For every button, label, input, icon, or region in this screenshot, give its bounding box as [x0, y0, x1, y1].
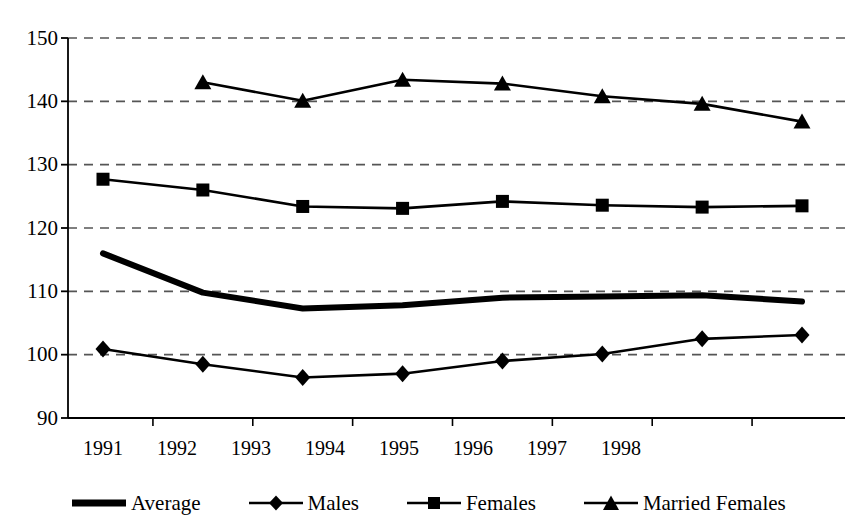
legend-label: Average [131, 493, 201, 514]
legend-swatch-diamond-icon [247, 493, 305, 513]
chart-legend: Average Males Females [70, 486, 830, 520]
legend-swatch-line-icon [70, 493, 128, 513]
axis-ticks [61, 38, 752, 426]
legend-label: Females [466, 493, 536, 514]
legend-label: Males [308, 493, 359, 514]
legend-swatch-triangle-icon [582, 493, 640, 513]
legend-item-married-females: Married Females [582, 493, 786, 514]
legend-swatch-square-icon [405, 493, 463, 513]
line-chart: 150 140 130 120 110 100 90 1991 1992 199… [0, 0, 860, 528]
data-series-layer [96, 72, 811, 386]
gridlines [68, 38, 845, 355]
legend-item-females: Females [405, 493, 536, 514]
legend-label: Married Females [643, 493, 786, 514]
legend-item-average: Average [70, 493, 201, 514]
plot-area [0, 0, 860, 528]
legend-item-males: Males [247, 493, 359, 514]
